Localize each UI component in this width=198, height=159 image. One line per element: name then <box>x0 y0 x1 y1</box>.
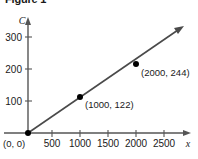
x-tick-label-2000: 2000 <box>125 138 148 149</box>
x-tick-label-500: 500 <box>44 138 61 149</box>
data-point-origin <box>25 130 31 136</box>
y-tick-label-200: 200 <box>5 64 22 75</box>
cost-vs-x-line-chart: 300 200 100 500 1000 1500 2000 2500 C x … <box>0 0 198 159</box>
data-point-1000-122 <box>77 94 83 100</box>
x-tick-label-1500: 1500 <box>97 138 120 149</box>
x-axis-arrowhead <box>183 130 191 136</box>
point-label-origin: (0, 0) <box>3 138 25 149</box>
y-tick-label-100: 100 <box>5 96 22 107</box>
y-axis-label: C <box>19 15 26 26</box>
x-tick-label-1000: 1000 <box>69 138 92 149</box>
data-line-arrowhead <box>174 26 184 34</box>
y-axis-arrowhead <box>25 17 31 25</box>
x-tick-label-2500: 2500 <box>153 138 176 149</box>
data-point-2000-244 <box>133 61 139 67</box>
point-label-2000-244: (2000, 244) <box>141 67 190 78</box>
y-tick-label-300: 300 <box>5 32 22 43</box>
figure-container: Figure 1 300 200 100 500 1000 1500 2000 … <box>0 0 198 159</box>
x-axis-label: x <box>185 138 191 149</box>
data-series-line <box>28 30 178 133</box>
point-label-1000-122: (1000, 122) <box>85 99 134 110</box>
